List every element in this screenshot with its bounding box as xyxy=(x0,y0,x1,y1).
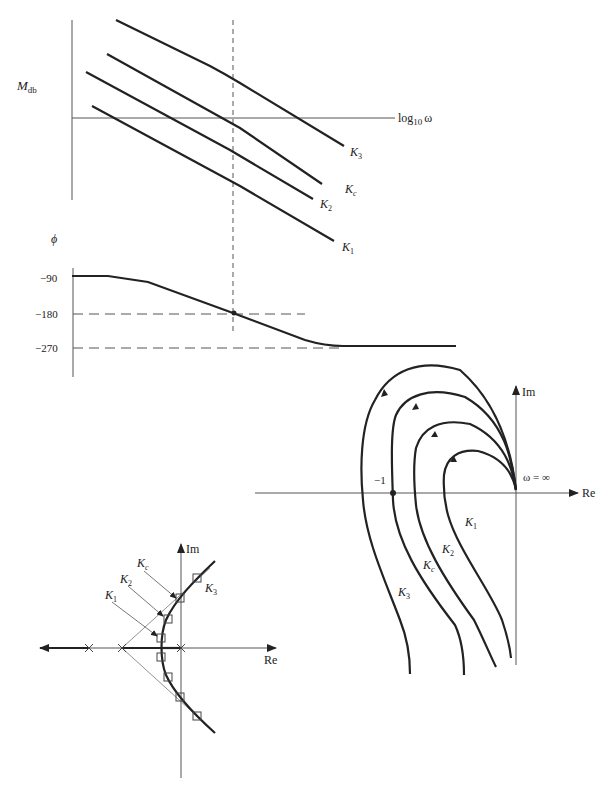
pointer-kc xyxy=(144,571,176,598)
label-kc: Kc xyxy=(344,182,357,198)
root-locus-label-k3: K3 xyxy=(204,581,217,597)
nyquist-label-kc: Kc xyxy=(422,558,435,574)
root-locus-label-k2: K2 xyxy=(119,572,132,588)
pointer-k1 xyxy=(112,602,157,636)
nyquist-curve-k3 xyxy=(361,365,516,674)
critical-point-minus-one xyxy=(390,490,396,496)
frequency-axis-label: log10ω xyxy=(398,111,432,127)
direction-arrow-icon xyxy=(412,403,419,410)
nyquist-label-k1: K1 xyxy=(464,515,477,531)
phase-curve xyxy=(72,276,456,346)
root-locus-plot: Im Re Kc xyxy=(40,542,277,778)
label-k1: K1 xyxy=(341,240,354,256)
nyquist-curve-k2 xyxy=(414,422,516,667)
bode-phase-plot: ϕ −90 −180 −270 xyxy=(35,232,456,377)
label-k3: K3 xyxy=(349,145,362,161)
nyquist-re-label: Re xyxy=(582,486,595,500)
root-locus-im-label: Im xyxy=(186,542,200,556)
magnitude-curve-k2 xyxy=(86,72,313,199)
bode-magnitude-plot: Mdb log10ω K3 Kc K2 K1 xyxy=(16,20,432,333)
nyquist-plot: Im Re −1 ω = ∞ K1 K2 Kc K3 xyxy=(255,365,595,675)
magnitude-axis-label: Mdb xyxy=(16,78,37,95)
nyquist-label-k3: K3 xyxy=(397,585,410,601)
phase-crossover-point xyxy=(232,311,237,316)
omega-infinity-label: ω = ∞ xyxy=(523,471,550,483)
pointer-k2 xyxy=(128,586,163,616)
direction-arrow-icon xyxy=(431,431,438,437)
figure-canvas: Mdb log10ω K3 Kc K2 K1 ϕ −90 −180 −270 I… xyxy=(0,0,612,787)
phase-axis-label: ϕ xyxy=(51,232,57,246)
phase-tick-minus-180: −180 xyxy=(35,308,58,320)
label-k2: K2 xyxy=(319,197,332,213)
nyquist-im-label: Im xyxy=(522,385,536,399)
magnitude-curve-k1 xyxy=(92,106,334,241)
minus-one-label: −1 xyxy=(374,474,386,486)
root-locus-label-k1: K1 xyxy=(104,588,117,604)
root-locus-label-kc: Kc xyxy=(136,556,149,572)
magnitude-curve-kc xyxy=(107,54,322,184)
phase-tick-minus-270: −270 xyxy=(35,342,58,354)
magnitude-curve-k3 xyxy=(116,20,344,146)
nyquist-curve-k1 xyxy=(444,451,516,658)
root-locus-re-label: Re xyxy=(264,653,277,667)
nyquist-label-k2: K2 xyxy=(441,542,454,558)
phase-tick-minus-90: −90 xyxy=(40,272,58,284)
